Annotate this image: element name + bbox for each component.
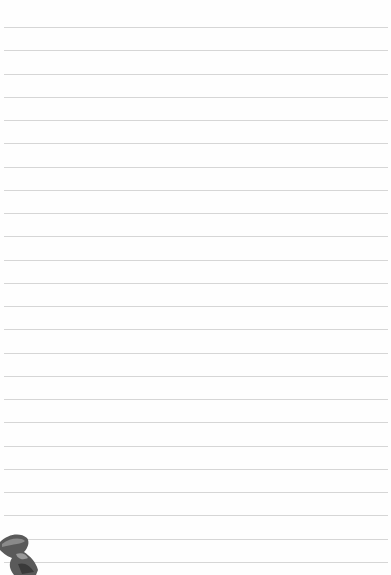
ruled-line — [4, 213, 388, 214]
ruled-line — [4, 446, 388, 447]
ruled-line — [4, 167, 388, 168]
ruled-line — [4, 283, 388, 284]
ruled-line — [4, 469, 388, 470]
ruled-line — [4, 190, 388, 191]
ruled-line — [4, 399, 388, 400]
ruled-line — [4, 562, 388, 563]
ruled-line — [4, 120, 388, 121]
ruled-line — [4, 539, 388, 540]
ruled-line — [4, 329, 388, 330]
ruled-line — [4, 492, 388, 493]
lined-paper — [0, 0, 391, 575]
ruled-line — [4, 422, 388, 423]
ruled-line — [4, 515, 388, 516]
ruled-line — [4, 376, 388, 377]
ruled-line — [4, 27, 388, 28]
ruled-line — [4, 236, 388, 237]
swallow-bird-icon — [0, 532, 44, 575]
ruled-line — [4, 353, 388, 354]
ruled-line — [4, 74, 388, 75]
ruled-line — [4, 143, 388, 144]
ruled-line — [4, 306, 388, 307]
ruled-line — [4, 97, 388, 98]
ruled-line — [4, 50, 388, 51]
ruled-line — [4, 260, 388, 261]
